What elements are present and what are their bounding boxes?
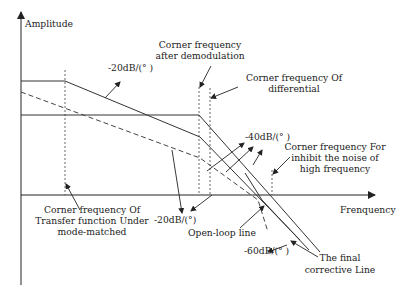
annotation-noise-2: inhibit the noise of <box>291 152 379 163</box>
arrow-diff <box>211 87 238 98</box>
arrow-40-a <box>207 143 244 171</box>
arrow-top-slope <box>105 82 120 98</box>
slope-label-top: -20dB/(° ) <box>108 62 153 73</box>
annotation-mm-2: Transfer function Under <box>35 215 149 226</box>
annotation-noise-1: Corner frequency For <box>284 141 386 152</box>
slope-label-bottom-right: -60dB/(° ) <box>244 245 289 256</box>
annotation-demod-2: after demodulation <box>155 50 244 61</box>
x-axis-label: Frenquency <box>340 204 396 215</box>
arrow-open-loop <box>240 206 264 228</box>
arrow-40-c <box>253 150 262 165</box>
arrow-final <box>291 241 318 257</box>
arrow-demod <box>200 66 211 87</box>
bode-diagram: Amplitude Frenquency -20dB/(° ) -40dB/(°… <box>0 0 404 298</box>
annotation-diff-2: differential <box>268 83 320 94</box>
arrow-noise <box>273 157 290 174</box>
annotation-mm-3: mode-matched <box>58 226 127 237</box>
y-axis-label: Amplitude <box>24 18 73 29</box>
annotation-noise-3: high frequency <box>300 163 371 174</box>
final-corrective-line <box>245 173 309 250</box>
annotation-demod-1: Corner frequency <box>159 39 242 50</box>
slope-label-bottom-left: -20dB/(°) <box>154 214 196 225</box>
annotation-final-1: The final <box>320 252 361 263</box>
arrow-20-bottom-b <box>191 195 212 211</box>
annotation-diff-1: Corner frequency Of <box>246 72 343 83</box>
annotation-final-2: corrective Line <box>305 264 376 275</box>
annotation-mm-1: Corner frequency Of <box>44 204 141 215</box>
annotation-open-loop: Open-loop line <box>188 227 256 238</box>
slope-label-middle: -40dB/(° ) <box>245 131 290 142</box>
arrow-20-bottom-a <box>172 150 182 213</box>
arrow-40-b <box>226 147 253 172</box>
